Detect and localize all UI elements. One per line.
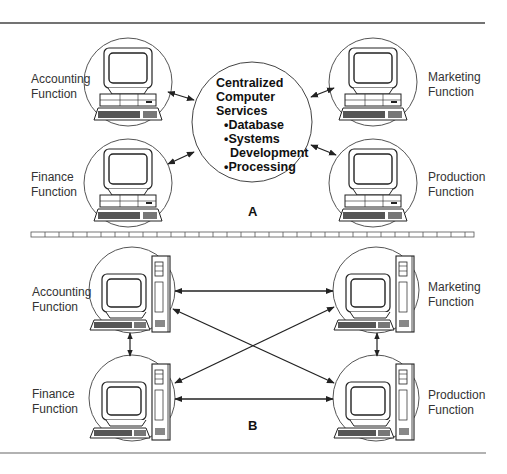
node-label-b-accounting: Accounting Function xyxy=(32,285,91,315)
label-line1: Marketing xyxy=(428,280,481,295)
label-line1: Accounting xyxy=(32,285,91,300)
center-title-line: Centralized xyxy=(216,76,309,90)
center-bullet-continuation: Development xyxy=(216,146,309,160)
node-label-a-marketing: Marketing Function xyxy=(428,70,481,100)
label-line1: Finance xyxy=(32,387,78,402)
node-label-a-finance: Finance Function xyxy=(31,170,77,200)
label-line1: Finance xyxy=(31,170,77,185)
label-line1: Production xyxy=(428,388,485,403)
label-line2: Function xyxy=(31,185,77,200)
center-title-line: Services xyxy=(216,104,309,118)
section-a-label: A xyxy=(248,204,257,219)
separator-bar xyxy=(31,232,474,237)
node-label-a-accounting: Accounting Function xyxy=(31,72,90,102)
arrow-a-finance xyxy=(168,152,194,164)
node-label-b-marketing: Marketing Function xyxy=(428,280,481,310)
label-line2: Function xyxy=(31,87,90,102)
node-label-b-finance: Finance Function xyxy=(32,387,78,417)
label-line2: Function xyxy=(428,185,485,200)
central-services-text: Centralized Computer Services •Database … xyxy=(216,76,309,174)
center-bullet: •Processing xyxy=(216,160,309,174)
center-bullet: •Systems xyxy=(216,132,309,146)
label-line2: Function xyxy=(428,85,481,100)
section-b-label: B xyxy=(248,418,257,433)
arrow-a-production xyxy=(311,145,336,155)
center-bullet: •Database xyxy=(216,118,309,132)
label-line1: Production xyxy=(428,170,485,185)
node-label-b-production: Production Function xyxy=(428,388,485,418)
label-line2: Function xyxy=(428,295,481,310)
node-label-a-production: Production Function xyxy=(428,170,485,200)
center-title-line: Computer xyxy=(216,90,309,104)
arrow-a-accounting xyxy=(168,92,194,100)
label-line2: Function xyxy=(32,402,78,417)
label-line2: Function xyxy=(428,403,485,418)
label-line2: Function xyxy=(32,300,91,315)
section-b xyxy=(89,247,419,441)
label-line1: Accounting xyxy=(31,72,90,87)
label-line1: Marketing xyxy=(428,70,481,85)
